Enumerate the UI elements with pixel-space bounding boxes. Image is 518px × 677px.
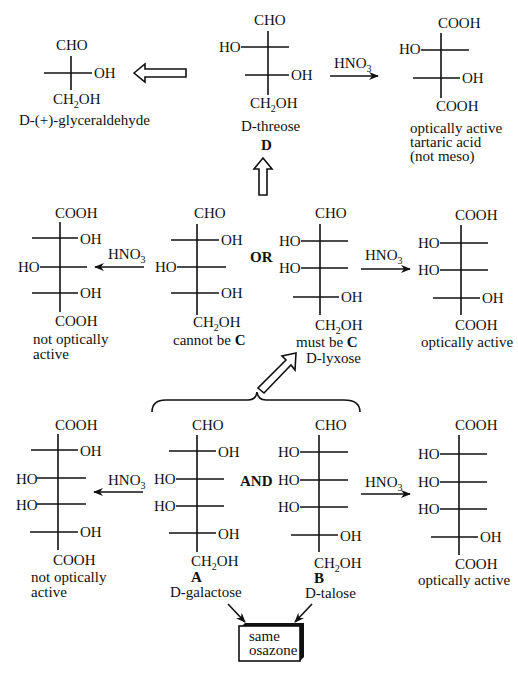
- svg-text:HO: HO: [278, 499, 300, 515]
- cho-label: CHO: [56, 37, 88, 53]
- svg-text:COOH: COOH: [53, 552, 96, 568]
- reagent-label: HNO3: [108, 472, 146, 491]
- carbohydrate-structure-diagram: CHO OH CH2OH D-(+)-glyceraldehyde CHO HO…: [0, 0, 518, 677]
- svg-text:CHO: CHO: [315, 417, 347, 433]
- svg-text:COOH: COOH: [55, 313, 98, 329]
- threose-fischer: CHO HO OH CH2OH D-threose D: [219, 12, 313, 153]
- reagent-label: HNO3: [108, 246, 146, 265]
- svg-text:COOH: COOH: [438, 15, 481, 31]
- glyceraldehyde-name: D-(+)-glyceraldehyde: [19, 112, 150, 129]
- svg-text:OH: OH: [80, 285, 102, 301]
- svg-text:optically active: optically active: [418, 572, 510, 588]
- svg-text:HO: HO: [155, 259, 177, 275]
- svg-text:OH: OH: [462, 70, 484, 86]
- compound-letter-d: D: [261, 137, 272, 153]
- svg-text:COOH: COOH: [55, 417, 98, 433]
- threose-name: D-threose: [241, 118, 300, 134]
- svg-text:HO: HO: [399, 41, 421, 57]
- row2-left-acid-fischer: COOH OH HO OH COOH not optically active: [18, 205, 109, 362]
- glyceraldehyde-fischer: CHO OH CH2OH D-(+)-glyceraldehyde: [19, 37, 150, 129]
- galactose-name: D-galactose: [170, 584, 242, 600]
- svg-text:CH2OH: CH2OH: [250, 95, 298, 114]
- svg-text:COOH: COOH: [455, 317, 498, 333]
- svg-text:HO: HO: [278, 444, 300, 460]
- row3-sugar-b-d-talose: CHO HO HO HO OH CH2OH B D-talose: [278, 417, 362, 601]
- hollow-arrow-up-icon: [254, 158, 272, 195]
- svg-text:OH: OH: [80, 524, 102, 540]
- svg-text:must be C: must be C: [296, 334, 358, 350]
- row2-right-acid-fischer: COOH HO HO OH COOH optically active: [418, 207, 513, 350]
- svg-text:CHO: CHO: [254, 12, 286, 28]
- svg-text:OH: OH: [340, 528, 362, 544]
- row2-sugar-cannot-be-c: CHO OH HO OH CH2OH cannot be C: [155, 205, 245, 348]
- svg-text:HO: HO: [418, 235, 440, 251]
- compound-letter-a: A: [191, 569, 202, 585]
- svg-text:HO: HO: [219, 39, 241, 55]
- svg-text:optically active: optically active: [421, 334, 513, 350]
- or-label: OR: [250, 249, 273, 265]
- reagent-label: HNO3: [365, 474, 403, 493]
- svg-text:HO: HO: [18, 259, 40, 275]
- svg-text:COOH: COOH: [455, 417, 498, 433]
- row3-right-acid-fischer: COOH HO HO HO OH COOH optically active: [418, 417, 510, 588]
- svg-text:CHO: CHO: [192, 417, 224, 433]
- osazone-box: same osazone: [239, 623, 304, 661]
- svg-text:OH: OH: [480, 529, 502, 545]
- arrow-to-osazone: [295, 604, 312, 622]
- svg-text:HO: HO: [418, 501, 440, 517]
- svg-text:HO: HO: [278, 472, 300, 488]
- svg-text:OH: OH: [221, 232, 243, 248]
- svg-text:HO: HO: [418, 446, 440, 462]
- hollow-arrow-diagonal-icon: [258, 353, 296, 393]
- tartaric-acid-fischer: COOH HO OH COOH optically active tartari…: [399, 15, 502, 165]
- row3-left-acid-fischer: COOH OH HO HO OH COOH not optically acti…: [16, 417, 107, 600]
- svg-text:COOH: COOH: [55, 205, 98, 221]
- row2-sugar-d-lyxose: CHO HO HO OH CH2OH must be C D-lyxose: [279, 205, 363, 366]
- svg-text:osazone: osazone: [249, 642, 298, 658]
- svg-text:CHO: CHO: [194, 205, 226, 221]
- svg-text:OH: OH: [482, 290, 504, 306]
- svg-text:OH: OH: [80, 231, 102, 247]
- svg-text:OH: OH: [80, 443, 102, 459]
- svg-text:CHO: CHO: [315, 205, 347, 221]
- svg-text:HO: HO: [418, 262, 440, 278]
- svg-text:COOH: COOH: [455, 207, 498, 223]
- hollow-arrow-left-icon: [134, 64, 186, 82]
- svg-text:OH: OH: [218, 526, 240, 542]
- svg-text:active: active: [31, 584, 67, 600]
- reagent-label: HNO3: [334, 55, 372, 74]
- compound-letter-b: B: [314, 570, 324, 586]
- svg-text:not optically: not optically: [31, 569, 107, 585]
- oh-label: OH: [94, 65, 116, 81]
- brace-grouping: [152, 392, 360, 412]
- svg-text:HO: HO: [418, 474, 440, 490]
- svg-text:CH2OH: CH2OH: [193, 314, 241, 333]
- and-label: AND: [240, 473, 273, 489]
- ch2oh-label: CH2OH: [53, 91, 101, 110]
- reagent-label: HNO3: [365, 247, 403, 266]
- lyxose-name: D-lyxose: [306, 350, 361, 366]
- svg-text:HO: HO: [154, 471, 176, 487]
- svg-text:not optically: not optically: [33, 331, 109, 347]
- svg-text:HO: HO: [279, 233, 301, 249]
- svg-text:OH: OH: [221, 285, 243, 301]
- svg-text:HO: HO: [16, 471, 38, 487]
- svg-text:cannot be C: cannot be C: [173, 332, 245, 348]
- svg-text:OH: OH: [291, 67, 313, 83]
- arrow-to-osazone: [228, 604, 245, 622]
- svg-text:HO: HO: [279, 260, 301, 276]
- talose-name: D-talose: [305, 585, 356, 601]
- svg-text:(not meso): (not meso): [410, 148, 475, 165]
- svg-text:COOH: COOH: [436, 98, 479, 114]
- svg-text:HO: HO: [154, 498, 176, 514]
- svg-text:HO: HO: [16, 497, 38, 513]
- svg-text:OH: OH: [218, 444, 240, 460]
- svg-text:active: active: [33, 346, 69, 362]
- svg-text:COOH: COOH: [455, 556, 498, 572]
- svg-text:OH: OH: [341, 289, 363, 305]
- row3-sugar-a-d-galactose: CHO OH HO HO OH CH2OH A D-galactose: [154, 417, 242, 600]
